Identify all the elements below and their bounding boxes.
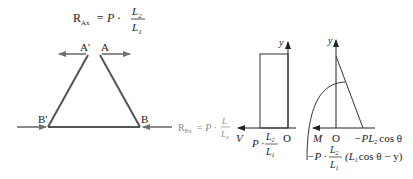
moment-origin: O [332,132,340,144]
svg-text:= P ·: = P · [196,122,216,133]
diagram-canvas: A' A B' B RAx = P · L2 L1 RBx = P · L L4… [0,0,413,179]
label-a: A [101,41,109,53]
svg-text:L2: L2 [131,5,142,20]
moment-curve-formula: −P · L2 L1 (L1cos θ − y) [307,144,403,171]
shear-origin: O [283,132,291,144]
svg-text:RBx: RBx [178,122,192,134]
moment-diagram: y M O −PL2cos θ −P · L2 L1 (L1cos θ − y) [307,35,403,171]
formula-r-bx: RBx = P · L L4 [178,116,230,140]
svg-text:L2: L2 [329,144,339,156]
label-a-prime: A' [80,41,90,53]
moment-curve [307,82,345,160]
shear-value: P · L2 L1 [251,131,278,158]
shear-block [260,54,288,128]
svg-text:= P ·: = P · [96,11,120,25]
svg-text:L1: L1 [265,146,275,158]
shear-x-label: V [236,132,244,144]
svg-text:L1: L1 [131,21,142,36]
a-frame: A' A B' B RAx = P · L2 L1 RBx = P · L L4 [17,5,230,140]
moment-x-label: M [312,132,323,144]
svg-text:−P ·: −P · [307,150,327,162]
shear-y-label: y [278,37,284,48]
moment-end-value: −PL2cos θ [354,132,402,145]
svg-text:L: L [221,116,227,126]
label-b: B [141,113,148,125]
moment-linear-segment [336,56,363,128]
svg-text:L4: L4 [220,129,229,140]
svg-text:L1: L1 [329,159,339,171]
svg-text:(L1cos θ − y): (L1cos θ − y) [345,150,403,163]
svg-text:L2: L2 [265,131,275,143]
shear-diagram: y V O P · L2 L1 [236,37,296,158]
svg-text:P ·: P · [251,137,264,149]
svg-text:RAx: RAx [73,11,90,27]
moment-y-label: y [327,35,333,46]
member-right [100,55,140,127]
formula-r-ax: RAx = P · L2 L1 [73,5,145,36]
member-left [48,55,88,127]
label-b-prime: B' [38,113,47,125]
